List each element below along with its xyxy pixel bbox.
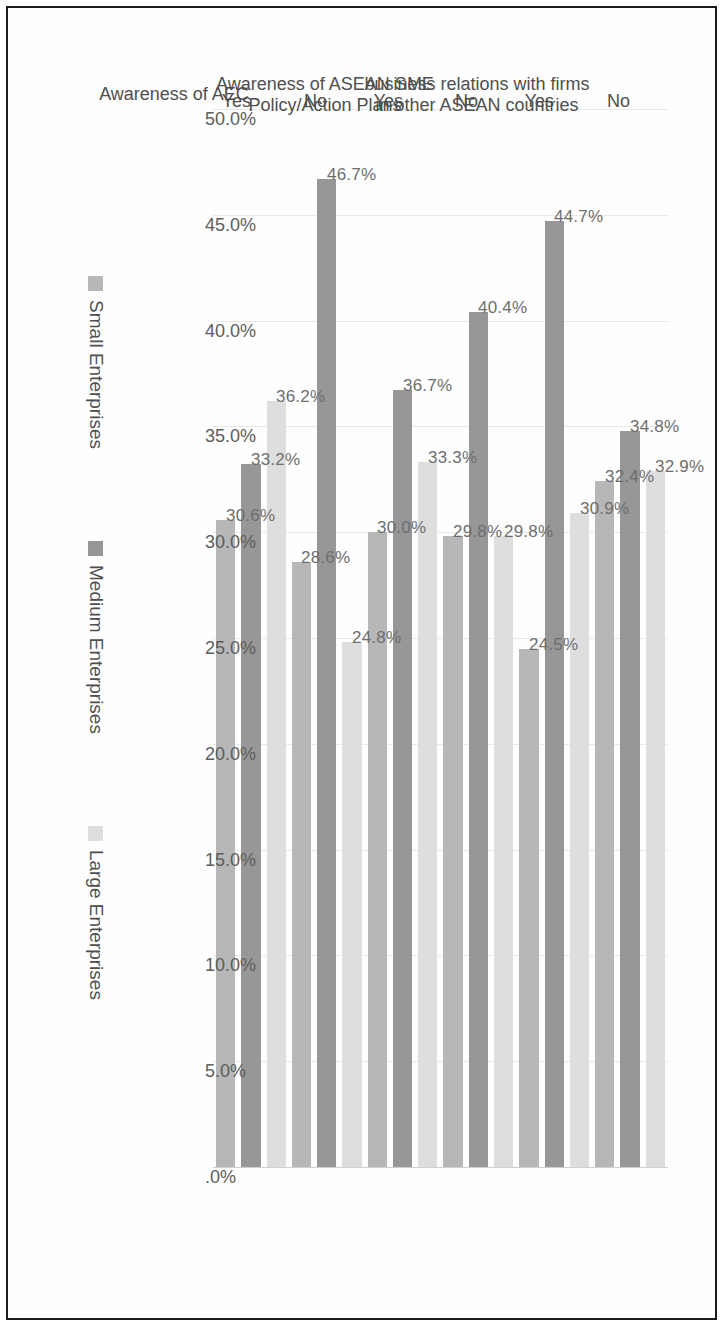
bar-value-label: 30.0% (377, 518, 426, 538)
value-axis-tick: .0% (205, 1167, 236, 1188)
bar-value-label: 44.7% (554, 207, 603, 227)
bar[interactable] (544, 221, 563, 1167)
legend-label: Large Enterprises (85, 850, 107, 1000)
bar[interactable] (620, 431, 639, 1167)
bar[interactable] (342, 642, 361, 1167)
bar-group: 30.9%44.7%24.5% (516, 109, 592, 1167)
bar-value-label: 30.6% (225, 506, 274, 526)
bar[interactable] (645, 471, 664, 1167)
bar-row: 28.6% (291, 109, 310, 1167)
bar[interactable] (494, 536, 513, 1167)
legend-item[interactable]: Medium Enterprises (85, 541, 107, 734)
bar-row: 29.8% (494, 109, 513, 1167)
bar[interactable] (468, 312, 487, 1167)
bar[interactable] (443, 536, 462, 1167)
bar-value-label: 24.8% (352, 628, 401, 648)
bar-row: 24.8% (342, 109, 361, 1167)
rotated-figure: 32.9%34.8%32.4%30.9%44.7%24.5%29.8%40.4%… (12, 13, 712, 1313)
bar-value-label: 36.7% (402, 376, 451, 396)
bar-row: 40.4% (468, 109, 487, 1167)
value-axis: 50.0%45.0%40.0%35.0%30.0%25.0%20.0%15.0%… (139, 109, 209, 1167)
bar-row: 33.3% (418, 109, 437, 1167)
bar-value-label: 33.3% (427, 448, 476, 468)
bar-value-label: 24.5% (528, 635, 577, 655)
legend-item[interactable]: Large Enterprises (85, 826, 107, 1000)
bar-value-label: 34.8% (630, 417, 679, 437)
bar-value-label: 40.4% (478, 298, 527, 318)
legend-swatch-icon (88, 276, 103, 291)
value-axis-tick: 25.0% (205, 638, 256, 659)
bar-row: 24.5% (519, 109, 538, 1167)
bar-row: 32.4% (595, 109, 614, 1167)
bar-value-label: 29.8% (453, 522, 502, 542)
bar-row: 36.2% (266, 109, 285, 1167)
bar-value-label: 33.2% (250, 450, 299, 470)
bar-group: 32.9%34.8%32.4% (592, 109, 668, 1167)
bar[interactable] (569, 513, 588, 1167)
bar-row: 32.9% (645, 109, 664, 1167)
bar[interactable] (291, 562, 310, 1167)
chart-legend: Small EnterprisesMedium EnterprisesLarge… (76, 109, 116, 1167)
bar-value-label: 29.8% (503, 522, 552, 542)
figure-frame: 32.9%34.8%32.4%30.9%44.7%24.5%29.8%40.4%… (6, 6, 717, 1320)
legend-item[interactable]: Small Enterprises (85, 276, 107, 449)
value-axis-tick: 10.0% (205, 955, 256, 976)
legend-swatch-icon (88, 541, 103, 556)
bar-group: 29.8%40.4%29.8% (440, 109, 516, 1167)
value-axis-tick: 30.0% (205, 532, 256, 553)
bar-value-label: 30.9% (579, 499, 628, 519)
bar-group: 24.8%46.7%28.6% (288, 109, 364, 1167)
bar-value-label: 32.9% (655, 457, 704, 477)
bar-row: 29.8% (443, 109, 462, 1167)
bar-value-label: 36.2% (276, 387, 325, 407)
bar-value-label: 46.7% (326, 165, 375, 185)
bar-row: 34.8% (620, 109, 639, 1167)
plot-area: 32.9%34.8%32.4%30.9%44.7%24.5%29.8%40.4%… (213, 109, 668, 1167)
bar-row: 46.7% (317, 109, 336, 1167)
value-axis-tick: 5.0% (205, 1061, 246, 1082)
value-axis-tick: 20.0% (205, 744, 256, 765)
value-axis-tick: 45.0% (205, 215, 256, 236)
bar[interactable] (392, 390, 411, 1167)
legend-label: Medium Enterprises (85, 565, 107, 734)
bar-chart: 32.9%34.8%32.4%30.9%44.7%24.5%29.8%40.4%… (12, 13, 712, 1313)
bar[interactable] (317, 179, 336, 1167)
bar[interactable] (595, 481, 614, 1167)
bar[interactable] (519, 649, 538, 1167)
value-axis-tick: 15.0% (205, 850, 256, 871)
bar-value-label: 32.4% (604, 467, 653, 487)
bar[interactable] (418, 462, 437, 1167)
value-axis-tick: 35.0% (205, 426, 256, 447)
legend-swatch-icon (88, 826, 103, 841)
legend-label: Small Enterprises (85, 300, 107, 449)
bar-value-label: 28.6% (301, 548, 350, 568)
category-axis-titles: business relations with firms in other A… (213, 3, 668, 95)
value-axis-tick: 40.0% (205, 321, 256, 342)
category-group-title: Awareness of AEC (58, 84, 288, 105)
gridline (213, 1167, 668, 1168)
